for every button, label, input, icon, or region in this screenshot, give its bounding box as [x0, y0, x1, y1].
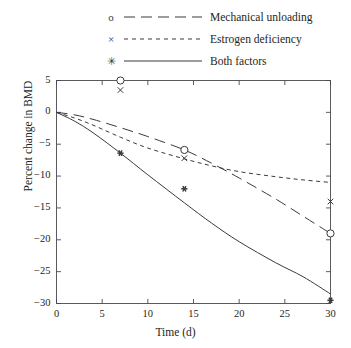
y-tick-label: −30 — [25, 298, 51, 309]
x-tick-label: 15 — [179, 309, 209, 320]
y-axis-title: Percent change in BMD — [22, 36, 34, 236]
axis-tick-labels: 05101520253050−5−10−15−20−25−30 — [0, 0, 351, 348]
x-tick-label: 5 — [87, 309, 117, 320]
x-tick-label: 25 — [270, 309, 300, 320]
y-tick-label: −25 — [25, 266, 51, 277]
x-tick-label: 30 — [316, 309, 346, 320]
x-tick-label: 10 — [133, 309, 163, 320]
x-tick-label: 20 — [224, 309, 254, 320]
x-tick-label: 0 — [42, 309, 72, 320]
x-axis-title: Time (d) — [0, 326, 351, 338]
figure-panel: o Mechanical unloading × Estrogen defici… — [0, 0, 351, 348]
